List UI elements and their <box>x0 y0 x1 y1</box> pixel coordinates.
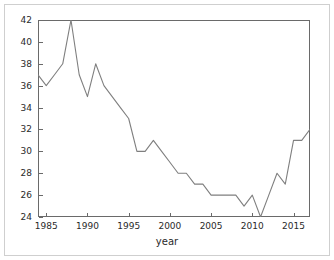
y-tick-mark <box>39 195 43 196</box>
x-tick-label: 1990 <box>76 222 99 231</box>
x-tick-mark <box>252 213 253 217</box>
plot-area <box>38 20 310 217</box>
y-tick-mark <box>39 42 43 43</box>
y-tick-mark <box>39 108 43 109</box>
y-tick-mark <box>39 86 43 87</box>
y-tick-label: 42 <box>8 16 32 25</box>
x-tick-mark <box>170 213 171 217</box>
x-tick-mark <box>87 213 88 217</box>
x-tick-label: 2015 <box>282 222 305 231</box>
line-series-svg <box>38 20 310 217</box>
y-tick-label: 40 <box>8 37 32 46</box>
y-tick-mark <box>39 173 43 174</box>
y-tick-label: 36 <box>8 81 32 90</box>
y-tick-label: 28 <box>8 169 32 178</box>
y-tick-label: 26 <box>8 191 32 200</box>
x-tick-label: 1985 <box>35 222 58 231</box>
y-tick-label: 32 <box>8 125 32 134</box>
y-tick-label: 38 <box>8 59 32 68</box>
y-tick-mark <box>39 20 43 21</box>
x-tick-label: 2000 <box>158 222 181 231</box>
y-tick-mark <box>39 151 43 152</box>
y-tick-label: 30 <box>8 147 32 156</box>
y-tick-mark <box>39 129 43 130</box>
y-tick-mark <box>39 217 43 218</box>
x-tick-mark <box>211 213 212 217</box>
x-tick-mark <box>129 213 130 217</box>
y-tick-mark <box>39 64 43 65</box>
x-tick-label: 2005 <box>200 222 223 231</box>
x-tick-mark <box>46 213 47 217</box>
y-tick-label: 24 <box>8 213 32 222</box>
chart-figure: 24262830323436384042 1985199019952000200… <box>0 0 334 260</box>
x-axis-label: year <box>0 236 334 247</box>
data-line <box>38 20 310 217</box>
x-tick-mark <box>294 213 295 217</box>
x-tick-label: 2010 <box>241 222 264 231</box>
y-tick-label: 34 <box>8 103 32 112</box>
x-tick-label: 1995 <box>117 222 140 231</box>
